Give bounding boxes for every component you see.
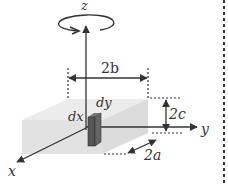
depth-label: 2a — [143, 147, 161, 163]
height-label: 2c — [168, 106, 186, 122]
dimension-2c: 2c — [150, 98, 186, 133]
dx-label: dx — [68, 109, 84, 124]
dimension-2b: 2b — [68, 60, 148, 99]
y-axis-label: y — [200, 121, 210, 137]
x-axis-label: x — [8, 163, 16, 179]
z-axis-label: z — [80, 0, 88, 13]
width-label: 2b — [101, 60, 119, 76]
dy-label: dy — [96, 95, 112, 110]
rotating-block-diagram: z 2b 2c y x 2a dx dy — [0, 0, 228, 185]
volume-element — [88, 113, 101, 146]
